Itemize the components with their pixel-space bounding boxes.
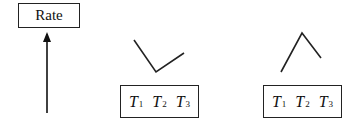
temperature-label-t3: T3: [176, 93, 190, 111]
rate-label: Rate: [35, 7, 63, 24]
temperature-box-peak: T1 T2 T3: [263, 85, 342, 118]
temperature-label-t1: T1: [129, 93, 143, 111]
valley-curve-icon: [134, 40, 184, 72]
rate-label-box: Rate: [18, 3, 80, 28]
temperature-box-valley: T1 T2 T3: [120, 85, 199, 118]
temperature-label-t1: T1: [272, 93, 286, 111]
temperature-label-t2: T2: [295, 93, 309, 111]
up-arrow-icon: [43, 32, 51, 113]
temperature-label-t3: T3: [319, 93, 333, 111]
temperature-label-t2: T2: [152, 93, 166, 111]
peak-curve-icon: [281, 33, 321, 72]
